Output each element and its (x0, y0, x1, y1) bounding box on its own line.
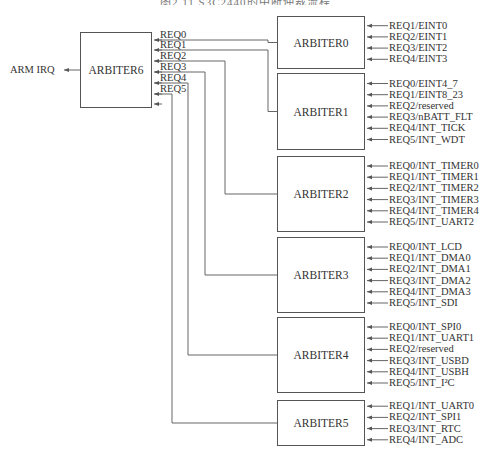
arbiter5-box: ARBITER5 (277, 400, 365, 446)
interrupt-source-0-0: REQ1/EINT0 (389, 20, 447, 31)
interrupt-source-0-1: REQ2/EINT1 (389, 31, 447, 42)
interrupt-source-3-3: REQ3/INT_DMA2 (389, 275, 471, 286)
arbiter3-box: ARBITER3 (277, 237, 365, 313)
interrupt-source-0-2: REQ3/EINT2 (389, 42, 447, 53)
interrupt-source-0-3: REQ4/EINT3 (389, 53, 447, 64)
arbiter4-box: ARBITER4 (277, 317, 365, 393)
interrupt-source-1-4: REQ4/INT_TICK (389, 122, 465, 133)
interrupt-source-2-2: REQ2/INT_TIMER2 (389, 182, 479, 193)
interrupt-source-4-0: REQ0/INT_SPI0 (389, 321, 461, 332)
connection-lines (0, 0, 491, 460)
interrupt-source-1-1: REQ1/EINT8_23 (389, 89, 463, 100)
req-label-1: REQ1 (160, 39, 186, 50)
interrupt-source-4-2: REQ2/reserved (389, 343, 454, 354)
interrupt-source-5-2: REQ3/INT_RTC (389, 423, 461, 434)
interrupt-source-5-3: REQ4/INT_ADC (389, 434, 463, 445)
req-label-5: REQ5 (160, 83, 186, 94)
interrupt-source-2-5: REQ5/INT_UART2 (389, 216, 474, 227)
interrupt-source-2-4: REQ4/INT_TIMER4 (389, 205, 479, 216)
interrupt-source-2-3: REQ3/INT_TIMER3 (389, 194, 479, 205)
interrupt-source-3-2: REQ2/INT_DMA1 (389, 263, 471, 274)
arm-irq-label: ARM IRQ (10, 64, 55, 75)
interrupt-source-4-5: REQ5/INT_I²C (389, 377, 455, 388)
interrupt-source-5-0: REQ1/INT_UART0 (389, 400, 474, 411)
arbiter2-box: ARBITER2 (277, 156, 365, 232)
interrupt-source-2-1: REQ1/INT_TIMER1 (389, 171, 479, 182)
interrupt-source-1-0: REQ0/EINT4_7 (389, 78, 458, 89)
req-label-4: REQ4 (160, 72, 186, 83)
interrupt-source-4-1: REQ1/INT_UART1 (389, 332, 474, 343)
interrupt-source-3-4: REQ4/INT_DMA3 (389, 286, 471, 297)
interrupt-source-3-1: REQ1/INT_DMA0 (389, 252, 471, 263)
arbiter0-box: ARBITER0 (277, 16, 365, 69)
arbiter6-box: ARBITER6 (80, 32, 152, 108)
interrupt-source-4-4: REQ4/INT_USBH (389, 366, 469, 377)
interrupt-source-1-2: REQ2/reserved (389, 100, 454, 111)
interrupt-source-5-1: REQ2/INT_SPI1 (389, 411, 461, 422)
interrupt-source-1-5: REQ5/INT_WDT (389, 134, 465, 145)
interrupt-source-4-3: REQ3/INT_USBD (389, 355, 469, 366)
req-label-3: REQ3 (160, 61, 186, 72)
interrupt-source-2-0: REQ0/INT_TIMER0 (389, 160, 479, 171)
req-label-2: REQ2 (160, 50, 186, 61)
interrupt-source-3-0: REQ0/INT_LCD (389, 241, 462, 252)
arbiter1-box: ARBITER1 (277, 73, 365, 150)
interrupt-source-3-5: REQ5/INT_SDI (389, 297, 458, 308)
interrupt-source-1-3: REQ3/nBATT_FLT (389, 111, 473, 122)
